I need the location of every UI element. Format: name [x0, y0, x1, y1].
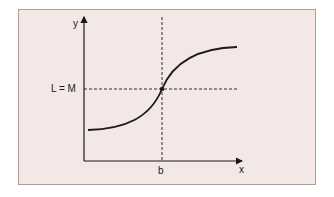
- b-label: b: [158, 165, 164, 176]
- lm-label: L = M: [51, 83, 76, 94]
- y-axis-label: y: [73, 18, 78, 29]
- intersection-point: [160, 87, 164, 91]
- sigmoid-diagram: [0, 0, 334, 197]
- x-axis-label: x: [239, 164, 244, 175]
